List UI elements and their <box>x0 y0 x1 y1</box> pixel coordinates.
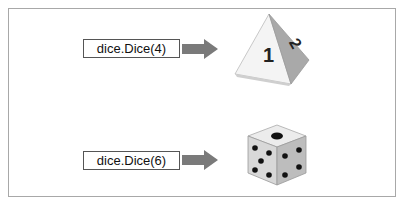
arrow-right-icon <box>182 39 218 59</box>
arrow-right-icon <box>182 150 218 170</box>
d4-die-icon: 1 2 <box>231 12 311 87</box>
label-dice-4: dice.Dice(4) <box>83 39 180 58</box>
d4-face-1: 1 <box>263 44 274 66</box>
label-dice-6: dice.Dice(6) <box>83 151 180 170</box>
d6-die-icon <box>246 123 308 187</box>
